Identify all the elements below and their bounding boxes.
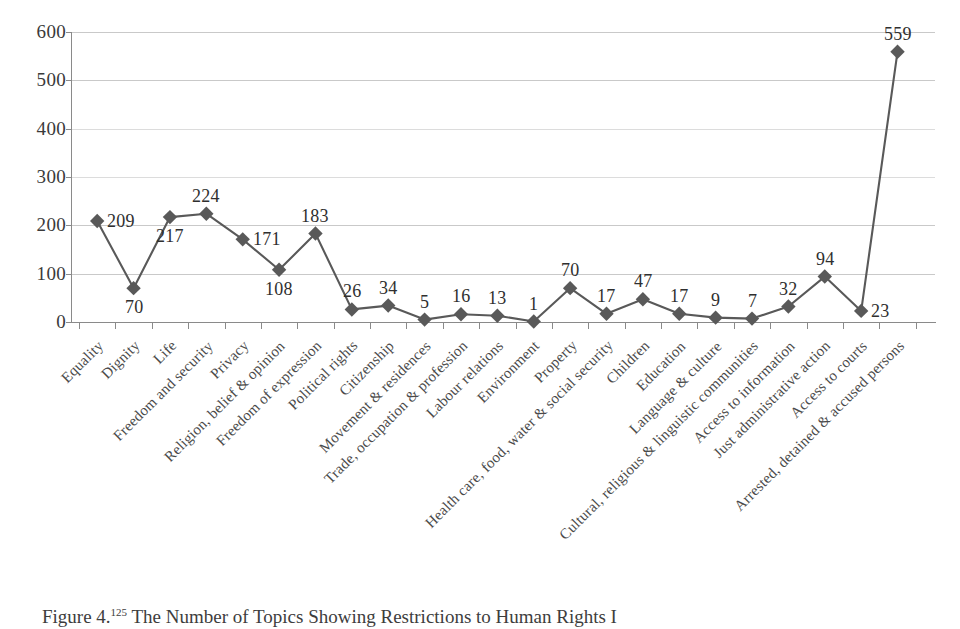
x-axis-tick-mark	[188, 322, 189, 329]
x-axis-tick-mark	[697, 322, 698, 329]
data-point-marker	[272, 263, 286, 277]
x-axis-tick-mark	[879, 322, 880, 329]
data-point-marker	[745, 311, 759, 325]
x-axis-tick-mark	[479, 322, 480, 329]
data-point-marker	[599, 307, 613, 321]
data-point-marker	[781, 299, 795, 313]
x-axis-tick-mark	[152, 322, 153, 329]
y-axis-tick-mark	[66, 225, 72, 226]
x-axis-tick-mark	[588, 322, 589, 329]
x-axis-tick-mark	[261, 322, 262, 329]
x-axis-tick-mark	[406, 322, 407, 329]
data-point-label: 17	[597, 287, 615, 305]
gridline	[71, 274, 935, 275]
y-axis-tick-label: 0	[12, 312, 66, 331]
figure-caption: Figure 4.125 The Number of Topics Showin…	[42, 600, 922, 629]
data-point-marker	[381, 298, 395, 312]
x-axis-tick-mark	[370, 322, 371, 329]
x-axis-category-label: Dignity	[99, 338, 143, 382]
x-axis-tick-mark	[625, 322, 626, 329]
data-point-marker	[490, 309, 504, 323]
caption-footnote: 125	[111, 606, 128, 618]
data-point-marker	[417, 312, 431, 326]
data-point-label: 224	[192, 187, 220, 205]
data-point-marker	[818, 269, 832, 283]
x-axis-tick-mark	[334, 322, 335, 329]
gridline	[71, 177, 935, 178]
data-point-marker	[199, 207, 213, 221]
caption-text: The Number of Topics Showing Restriction…	[127, 606, 617, 627]
data-point-label: 16	[452, 287, 470, 305]
data-point-label: 5	[420, 293, 429, 311]
y-axis-tick-label: 100	[12, 264, 66, 283]
data-point-label: 183	[301, 207, 329, 225]
data-point-label: 70	[561, 261, 579, 279]
y-axis-tick-labels: 0100200300400500600	[0, 0, 66, 622]
y-axis-tick-mark	[66, 274, 72, 275]
x-axis-category-label: Life	[151, 338, 180, 367]
data-point-label: 559	[884, 25, 912, 43]
caption-prefix: Figure 4.	[42, 606, 111, 627]
data-point-marker	[636, 292, 650, 306]
data-point-label: 13	[488, 289, 506, 307]
data-point-label: 34	[379, 279, 397, 297]
x-axis-tick-mark	[443, 322, 444, 329]
y-axis-tick-label: 500	[12, 70, 66, 89]
data-point-marker	[236, 232, 250, 246]
data-point-label: 32	[779, 280, 797, 298]
y-axis-tick-label: 600	[12, 22, 66, 41]
data-point-label: 171	[253, 230, 281, 248]
data-point-marker	[308, 226, 322, 240]
x-axis-tick-mark	[225, 322, 226, 329]
y-axis-tick-mark	[66, 32, 72, 33]
x-axis-tick-mark	[843, 322, 844, 329]
gridline	[71, 225, 935, 226]
data-point-marker	[454, 307, 468, 321]
x-axis-tick-mark	[734, 322, 735, 329]
x-axis-tick-mark	[297, 322, 298, 329]
x-axis-tick-mark	[661, 322, 662, 329]
y-axis-tick-mark	[66, 80, 72, 81]
data-point-label: 209	[107, 212, 135, 230]
x-axis-tick-mark	[552, 322, 553, 329]
data-point-label: 23	[871, 302, 889, 320]
data-point-marker	[890, 45, 904, 59]
data-point-label: 94	[816, 250, 834, 268]
data-point-label: 108	[265, 280, 293, 298]
data-point-label: 47	[634, 272, 652, 290]
data-point-marker	[126, 281, 140, 295]
x-axis-tick-mark	[516, 322, 517, 329]
x-axis-tick-mark	[916, 322, 917, 329]
y-axis-tick-label: 200	[12, 215, 66, 234]
x-axis-tick-mark	[770, 322, 771, 329]
gridline	[71, 32, 935, 33]
data-point-label: 9	[711, 291, 720, 309]
y-axis-tick-label: 300	[12, 167, 66, 186]
data-point-label: 7	[748, 292, 757, 310]
data-point-label: 1	[529, 295, 538, 313]
data-point-label: 17	[670, 287, 688, 305]
data-point-marker	[163, 210, 177, 224]
x-axis-tick-mark	[115, 322, 116, 329]
y-axis-tick-mark	[66, 129, 72, 130]
x-axis-tick-mark	[807, 322, 808, 329]
data-point-marker	[854, 304, 868, 318]
data-point-marker	[345, 302, 359, 316]
data-point-marker	[563, 281, 577, 295]
y-axis-tick-label: 400	[12, 119, 66, 138]
data-point-label: 70	[125, 298, 143, 316]
data-point-label: 217	[156, 227, 184, 245]
data-point-label: 26	[343, 282, 361, 300]
data-point-marker	[672, 307, 686, 321]
x-axis-tick-mark	[79, 322, 80, 329]
gridline	[71, 129, 935, 130]
y-axis-tick-mark	[66, 322, 72, 323]
y-axis-tick-mark	[66, 177, 72, 178]
gridline	[71, 80, 935, 81]
